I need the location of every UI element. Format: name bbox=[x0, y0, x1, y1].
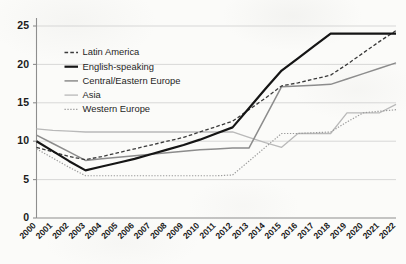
x-tick-label: 2017 bbox=[295, 220, 316, 241]
x-tick-label: 2019 bbox=[328, 220, 349, 241]
legend-label-asia: Asia bbox=[83, 89, 102, 100]
x-tick-label: 2015 bbox=[262, 220, 283, 241]
y-tick-label: 20 bbox=[17, 58, 29, 70]
x-tick-label: 2022 bbox=[377, 220, 398, 241]
x-axis-tick-labels: 2000200120022003200420052006200720082009… bbox=[17, 220, 397, 241]
x-tick-label: 2018 bbox=[311, 220, 332, 241]
x-tick-label: 2002 bbox=[50, 220, 71, 241]
y-tick-label: 5 bbox=[23, 173, 29, 185]
legend-label-english-speaking: English-speaking bbox=[83, 61, 154, 72]
chart-legend: Latin AmericaEnglish-speakingCentral/Eas… bbox=[65, 46, 181, 114]
chart-plot-area: 0510152025 20002001200220032004200520062… bbox=[0, 0, 406, 264]
x-tick-label: 2012 bbox=[213, 220, 234, 241]
legend-label-central-eastern-europe: Central/Eastern Europe bbox=[83, 75, 181, 86]
y-tick-label: 25 bbox=[17, 19, 29, 31]
legend-label-western-europe: Western Europe bbox=[83, 103, 151, 114]
x-tick-label: 2014 bbox=[246, 220, 267, 241]
x-tick-label: 2009 bbox=[164, 220, 185, 241]
x-tick-label: 2013 bbox=[230, 220, 251, 241]
legend-label-latin-america: Latin America bbox=[83, 46, 141, 57]
x-tick-label: 2021 bbox=[360, 220, 381, 241]
x-tick-label: 2011 bbox=[197, 220, 217, 240]
y-tick-label: 10 bbox=[17, 134, 29, 146]
y-tick-label: 0 bbox=[23, 211, 29, 223]
x-tick-label: 2008 bbox=[148, 220, 169, 241]
x-tick-label: 2006 bbox=[115, 220, 136, 241]
x-tick-label: 2007 bbox=[132, 220, 153, 241]
x-tick-label: 2003 bbox=[66, 220, 87, 241]
x-tick-label: 2001 bbox=[34, 220, 55, 241]
y-axis-tick-labels: 0510152025 bbox=[17, 19, 29, 223]
x-tick-label: 2005 bbox=[99, 220, 120, 241]
x-tick-label: 2010 bbox=[181, 220, 202, 241]
x-tick-label: 2016 bbox=[279, 220, 300, 241]
x-tick-label: 2020 bbox=[344, 220, 365, 241]
y-tick-label: 15 bbox=[17, 96, 29, 108]
x-tick-label: 2000 bbox=[17, 220, 38, 241]
line-chart: 0510152025 20002001200220032004200520062… bbox=[0, 0, 406, 264]
x-tick-label: 2004 bbox=[83, 220, 104, 241]
